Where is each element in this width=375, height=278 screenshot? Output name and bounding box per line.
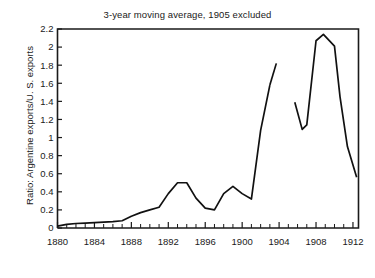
y-tick-label: 1 [48,132,53,143]
y-tick-label: 0.2 [40,204,53,215]
x-axis-ticks: 188018841888189218961900190419081912 [47,222,364,247]
data-line-segment [58,85,270,226]
data-line-segment [270,63,276,85]
y-tick-label: 2 [48,41,53,52]
y-tick-label: 1.2 [40,114,53,125]
y-tick-label: 1.4 [40,96,53,107]
y-tick-label: 1.6 [40,78,53,89]
x-tick-label: 1904 [269,236,290,247]
y-tick-label: 2.2 [40,23,53,34]
y-axis-ticks: 00.20.40.60.811.21.41.61.822.2 [40,23,62,233]
y-tick-label: 0.6 [40,168,53,179]
plot-area: 00.20.40.60.811.21.41.61.822.2 188018841… [0,0,375,278]
x-tick-label: 1892 [158,236,179,247]
data-series [58,34,357,226]
x-tick-label: 1908 [305,236,326,247]
y-tick-label: 1.8 [40,60,53,71]
y-tick-label: 0.8 [40,150,53,161]
x-tick-label: 1888 [121,236,142,247]
chart-figure: 3-year moving average, 1905 excluded Rat… [0,0,375,278]
x-tick-label: 1884 [84,236,105,247]
x-tick-label: 1880 [47,236,68,247]
x-tick-label: 1896 [195,236,216,247]
x-tick-label: 1900 [232,236,253,247]
y-tick-label: 0 [48,222,53,233]
data-line-segment [295,34,357,177]
y-tick-label: 0.4 [40,186,53,197]
x-tick-label: 1912 [342,236,363,247]
